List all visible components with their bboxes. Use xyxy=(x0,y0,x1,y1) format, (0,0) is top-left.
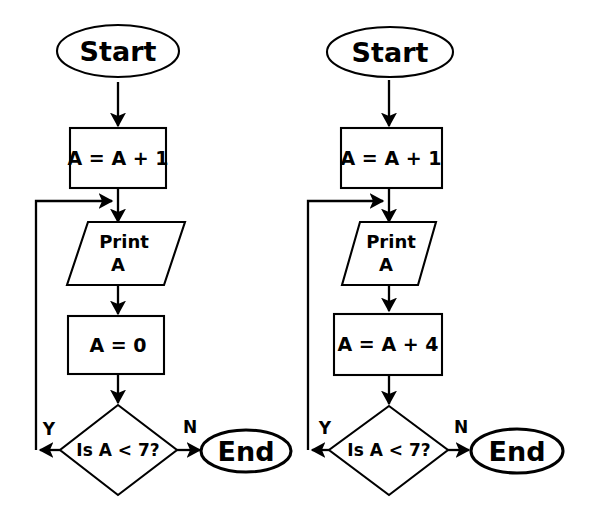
node-start-label: Start xyxy=(352,37,429,68)
node-assign-label: A = 0 xyxy=(89,334,146,356)
branch-label-no: N xyxy=(454,417,468,437)
node-end-label: End xyxy=(489,436,546,467)
branch-label-no: N xyxy=(183,417,197,437)
flowchart-diagram: Start A = A + 1 Print A A = 0 Is A < 7? … xyxy=(0,0,594,528)
node-assign-label: A = A + 4 xyxy=(338,333,439,355)
left-flowchart: Start A = A + 1 Print A A = 0 Is A < 7? … xyxy=(36,25,291,495)
node-increment-label: A = A + 1 xyxy=(68,147,169,169)
branch-label-yes: Y xyxy=(318,418,332,438)
node-end-label: End xyxy=(218,436,275,467)
node-print-label-line2: A xyxy=(111,254,125,275)
node-print-label-line1: Print xyxy=(366,231,416,252)
branch-label-yes: Y xyxy=(42,419,56,439)
node-decision-label: Is A < 7? xyxy=(76,440,159,460)
node-start-label: Start xyxy=(80,36,157,67)
flowchart-canvas: Start A = A + 1 Print A A = 0 Is A < 7? … xyxy=(0,0,594,528)
node-decision-label: Is A < 7? xyxy=(347,440,430,460)
right-flowchart: Start A = A + 1 Print A A = A + 4 Is A <… xyxy=(308,27,563,495)
node-increment-label: A = A + 1 xyxy=(341,147,442,169)
node-print-label-line2: A xyxy=(379,254,393,275)
node-print-label-line1: Print xyxy=(99,231,149,252)
